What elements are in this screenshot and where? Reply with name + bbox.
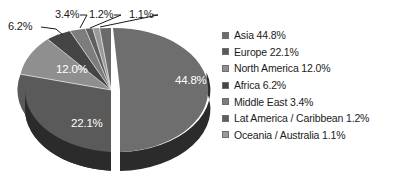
- callout-label-lat-america: 1.2%: [89, 8, 113, 20]
- legend-item-lat-america[interactable]: Lat America / Caribbean 1.2%: [222, 110, 402, 127]
- pie-chart-figure: 44.8% 22.1% 12.0% 6.2% 3.4% 1.2% 1.1% As…: [0, 0, 402, 178]
- legend-label: North America 12.0%: [234, 62, 330, 74]
- legend-label: Asia 44.8%: [234, 29, 286, 41]
- legend-swatch-icon: [222, 115, 229, 122]
- legend-label: Oceania / Australia 1.1%: [234, 129, 345, 141]
- callout-label-africa: 6.2%: [8, 20, 32, 32]
- pie-main-group: [17, 28, 111, 171]
- slice-label-europe: 22.1%: [71, 117, 103, 129]
- legend-item-africa[interactable]: Africa 6.2%: [222, 77, 402, 94]
- slice-label-north-america: 12.0%: [56, 63, 88, 75]
- legend-item-europe[interactable]: Europe 22.1%: [222, 44, 402, 61]
- legend-item-north-america[interactable]: North America 12.0%: [222, 60, 402, 77]
- callout-label-oceania: 1.1%: [129, 8, 153, 20]
- legend-swatch-icon: [222, 82, 229, 89]
- legend-label: Europe 22.1%: [234, 46, 299, 58]
- callout-label-middle-east: 3.4%: [55, 8, 79, 20]
- legend-item-asia[interactable]: Asia 44.8%: [222, 27, 402, 44]
- slice-label-asia: 44.8%: [175, 74, 207, 86]
- legend-swatch-icon: [222, 65, 229, 72]
- legend-label: Africa 6.2%: [234, 79, 286, 91]
- legend-item-oceania[interactable]: Oceania / Australia 1.1%: [222, 127, 402, 144]
- pie-svg: [0, 0, 222, 178]
- pie-exploded-group: [113, 28, 210, 171]
- legend-swatch-icon: [222, 48, 229, 55]
- pie-graphic: 44.8% 22.1% 12.0% 6.2% 3.4% 1.2% 1.1%: [0, 0, 222, 178]
- legend-swatch-icon: [222, 98, 229, 105]
- legend-item-middle-east[interactable]: Middle East 3.4%: [222, 93, 402, 110]
- legend-swatch-icon: [222, 131, 229, 138]
- legend-label: Middle East 3.4%: [234, 96, 313, 108]
- legend-label: Lat America / Caribbean 1.2%: [234, 112, 369, 124]
- leader-line-middle-east: [80, 15, 87, 28]
- chart-legend: Asia 44.8% Europe 22.1% North America 12…: [222, 27, 402, 143]
- legend-swatch-icon: [222, 32, 229, 39]
- leader-line-africa: [41, 27, 63, 35]
